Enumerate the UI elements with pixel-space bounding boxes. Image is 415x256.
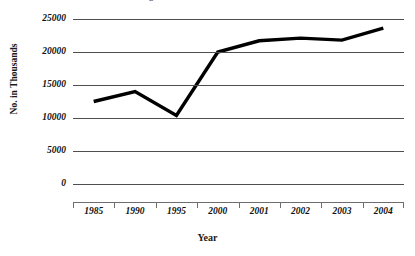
data-series-line — [73, 19, 404, 184]
gridline — [73, 184, 404, 185]
x-axis-tick-labels: 19851990199520002001200220032004 — [73, 206, 404, 224]
plot-area — [73, 19, 404, 184]
y-axis-tick-label: 0 — [10, 178, 66, 188]
y-axis-tick-label: 20000 — [10, 46, 66, 56]
y-axis-tick-label: 15000 — [10, 79, 66, 89]
y-axis-tick-label: 25000 — [10, 13, 66, 23]
gridline — [73, 19, 404, 20]
y-axis-tick-labels: 0500010000150002000025000 — [8, 0, 66, 256]
y-axis-tick-label: 5000 — [10, 145, 66, 155]
y-axis-tick-label: 10000 — [10, 112, 66, 122]
gridline — [73, 118, 404, 119]
gridline — [73, 151, 404, 152]
x-axis-line — [73, 202, 404, 203]
gridline — [73, 85, 404, 86]
x-axis-tick-label: 2004 — [357, 206, 409, 216]
gridline — [73, 52, 404, 53]
x-axis-title: Year — [0, 232, 415, 243]
line-chart-figure: Figure 1. Number of Beneficiaries No. in… — [0, 0, 415, 256]
